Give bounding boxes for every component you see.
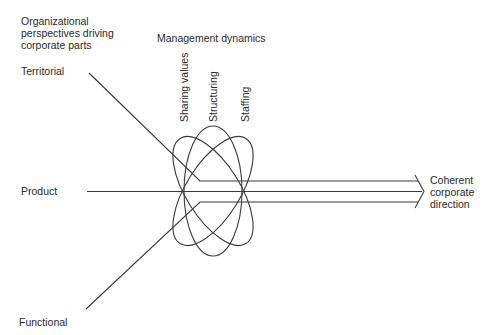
- territorial-path: [89, 73, 418, 181]
- diagram-canvas: [0, 0, 492, 335]
